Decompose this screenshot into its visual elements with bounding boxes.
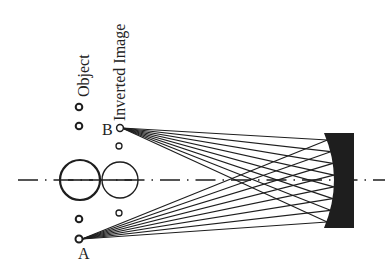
concave-mirror-diagram: Object Inverted Image B A <box>0 0 391 276</box>
object-point <box>76 216 83 223</box>
object-label: Object <box>75 54 93 97</box>
image-point <box>116 143 122 149</box>
object-point-a <box>76 236 83 243</box>
object-point <box>76 123 83 130</box>
image-point <box>116 210 122 216</box>
point-b-label: B <box>102 121 113 138</box>
inverted-image-label: Inverted Image <box>111 24 129 121</box>
image-point-b <box>117 125 124 132</box>
point-a-label: A <box>78 245 90 262</box>
object-point <box>76 104 83 111</box>
